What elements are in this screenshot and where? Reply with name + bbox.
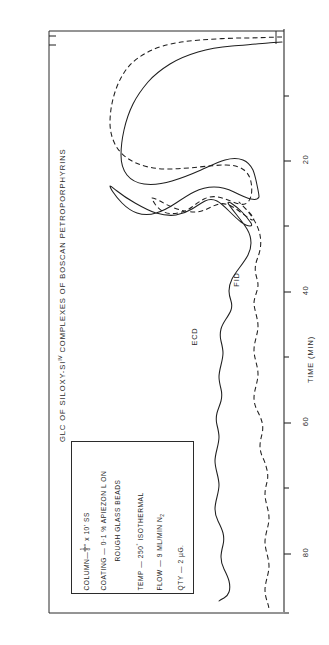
axis-tick-80: 80: [301, 542, 310, 564]
trace-label-ecd: ECD: [190, 323, 199, 351]
condition-flow: FLOW — 9 ML/MIN N2: [156, 513, 165, 590]
figure-title-superscript: IV: [57, 356, 63, 361]
chromatogram-figure: GLC OF SILOXY-SIIV COMPLEXES OF BOSCAN P…: [0, 0, 329, 645]
trace-label-fid: FID: [232, 266, 241, 294]
condition-column: COLUMN—18" x 10' SS: [79, 512, 90, 590]
conditions-legend-inner: COLUMN—18" x 10' SS COATING — 0·1 % APIE…: [73, 443, 192, 592]
nitrogen-subscript: 2: [158, 513, 164, 516]
axis-tick-40: 40: [301, 280, 310, 302]
condition-temp-suffix: ISOTHERMAL: [136, 492, 143, 543]
figure-title-suffix: COMPLEXES OF BOSCAN PETROPORPHYRINS: [58, 148, 67, 355]
figure-title: GLC OF SILOXY-SIIV COMPLEXES OF BOSCAN P…: [57, 145, 68, 445]
condition-qty: QTY — 2 µG.: [177, 544, 184, 590]
condition-temp: TEMP — 250° ISOTHERMAL: [135, 492, 144, 590]
condition-column-suffix: " x 10' SS: [82, 512, 89, 546]
figure-title-prefix: GLC OF SILOXY-SI: [58, 361, 67, 442]
condition-support: ROUGH GLASS BEADS: [114, 479, 121, 561]
condition-column-prefix: COLUMN—: [82, 551, 89, 590]
condition-coating: COATING — 0·1 % APIEZON L ON: [100, 470, 107, 590]
condition-flow-prefix: FLOW — 9 ML/MIN N: [155, 516, 162, 590]
baseline-start-segments: [49, 36, 56, 45]
conditions-legend-box: COLUMN—18" x 10' SS COATING — 0·1 % APIE…: [71, 441, 194, 594]
condition-temp-prefix: TEMP — 250: [136, 545, 143, 590]
axis-tick-60: 60: [301, 411, 310, 433]
axis-label-time: TIME (MIN): [306, 300, 315, 420]
time-axis: [284, 29, 291, 613]
axis-tick-20: 20: [301, 149, 310, 171]
